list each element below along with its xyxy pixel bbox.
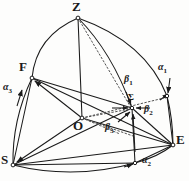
node-alpha2 — [133, 161, 136, 164]
dotted-z-sigma — [78, 18, 130, 106]
angle-label-alpha1: α1 — [158, 62, 167, 75]
arrowhead-alpha3 — [17, 90, 22, 106]
chord-f-sigma — [32, 78, 132, 108]
alpha3-sub: 3 — [9, 87, 13, 95]
vertex-label-sigma: Σ — [128, 93, 134, 102]
dotted-o-lower2 — [82, 118, 120, 134]
chord-s-sigma — [13, 108, 132, 165]
alpha1-sub: 1 — [164, 67, 168, 75]
beta1-sub: 1 — [129, 79, 133, 87]
vertex-label-s: S — [1, 153, 9, 166]
chord-z-o — [78, 18, 82, 118]
dotted-o-sigma — [82, 109, 130, 118]
beta3-sub: 3 — [110, 127, 114, 135]
angle-label-alpha3: α3 — [3, 82, 12, 95]
chord-s-a2 — [13, 163, 135, 165]
arrowhead-alpha1 — [168, 78, 170, 93]
vertex-label-f: F — [19, 60, 27, 73]
chord-o-e — [82, 118, 173, 145]
node-sigma — [130, 106, 133, 109]
node-s — [11, 163, 15, 167]
node-e — [171, 143, 175, 147]
spherical-triangle-figure: Z F S E O Σ α1 α2 α3 β1 β2 β3 — [0, 0, 189, 181]
angle-label-beta3: β3 — [105, 122, 114, 135]
beta2-sub: 2 — [149, 109, 153, 117]
node-f — [30, 76, 34, 80]
alpha2-sub: 2 — [148, 160, 152, 168]
node-alpha1 — [165, 94, 168, 97]
vertex-label-z: Z — [72, 0, 81, 13]
diagram-canvas — [0, 0, 189, 181]
chord-a1-e — [167, 96, 173, 145]
angle-label-beta2: β2 — [144, 104, 153, 117]
ray-o-to-f — [35, 81, 82, 118]
node-z — [76, 16, 80, 20]
chord-f-s — [13, 78, 32, 165]
vertex-label-e: E — [176, 133, 185, 146]
angle-label-alpha2: α2 — [142, 155, 151, 168]
arc-z-f — [32, 18, 78, 78]
angle-label-beta1: β1 — [124, 74, 133, 87]
vertex-label-o: O — [73, 119, 83, 132]
